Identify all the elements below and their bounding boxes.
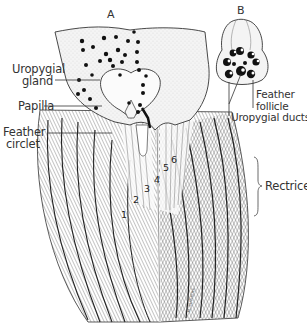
rectrix-number-5: 5	[163, 162, 169, 173]
label-feather-circlet-line2: circlet	[3, 138, 45, 150]
rectrices-brace	[254, 157, 262, 216]
rectrix-number-1: 1	[121, 209, 127, 220]
label-uropygial-gland-line2: gland	[12, 75, 65, 87]
label-uropygial-gland: Uropygial gland	[12, 63, 65, 87]
tail-diagram	[0, 0, 307, 328]
panel-b-letter: B	[237, 4, 245, 17]
panel-a-letter: A	[107, 8, 115, 21]
rectrix-number-3: 3	[144, 183, 150, 194]
label-feather-follicle-line1: Feather	[256, 88, 295, 100]
label-papilla: Papilla	[18, 100, 54, 112]
rectrix-number-4: 4	[154, 174, 160, 185]
panel-b-drawing	[216, 19, 268, 84]
label-feather-circlet: Feather circlet	[3, 126, 45, 150]
label-feather-follicle: Feather follicle	[256, 88, 295, 112]
rectrix-number-6: 6	[171, 154, 177, 165]
rectrix-number-2: 2	[133, 194, 139, 205]
label-uropygial-ducts: Uropygial ducts	[231, 111, 307, 123]
label-rectrices: Rectrices	[265, 180, 307, 192]
